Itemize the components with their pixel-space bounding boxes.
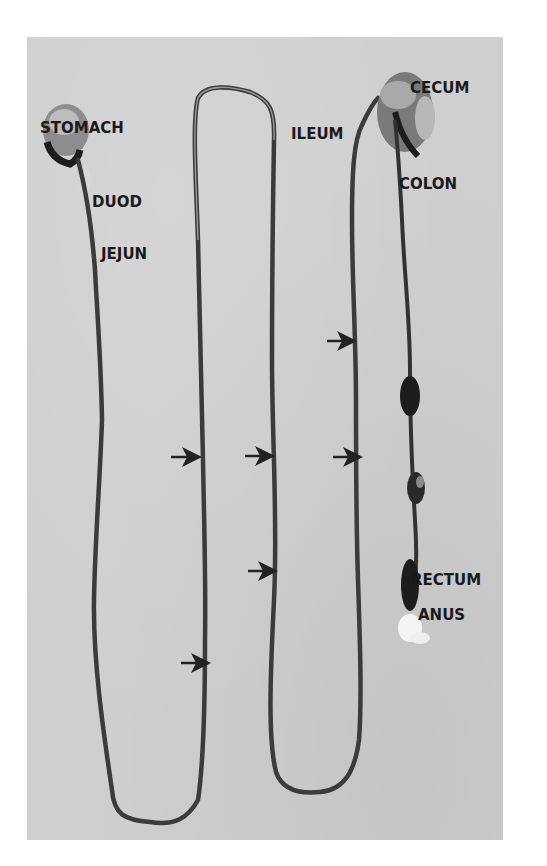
label-duodenum: DUOD xyxy=(92,195,142,210)
arrow-markers xyxy=(171,341,358,663)
label-cecum: CECUM xyxy=(410,81,469,96)
label-rectum: RECTUM xyxy=(411,573,481,588)
label-ileum: ILEUM xyxy=(291,127,344,142)
label-stomach: STOMACH xyxy=(40,121,124,136)
label-anus: ANUS xyxy=(418,608,465,623)
label-jejunum: JEJUN xyxy=(101,247,147,262)
label-colon: COLON xyxy=(399,177,457,192)
